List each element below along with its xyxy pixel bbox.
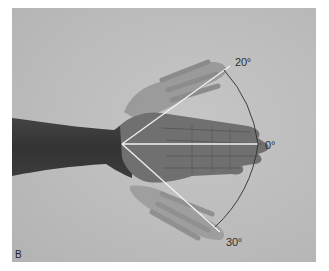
- angle-label-20: 20°: [235, 56, 251, 68]
- figure-caption: [12, 265, 312, 271]
- ghost-hand-upper: [124, 62, 226, 120]
- angle-label-30: 30°: [226, 236, 242, 248]
- wrist-deviation-illustration: [12, 8, 316, 262]
- angle-label-0: 0°: [265, 139, 275, 151]
- forearm: [12, 118, 134, 178]
- figure-panel: 20° 0° 30° B: [12, 8, 316, 262]
- hand-neutral: [120, 113, 269, 183]
- panel-letter: B: [15, 249, 22, 260]
